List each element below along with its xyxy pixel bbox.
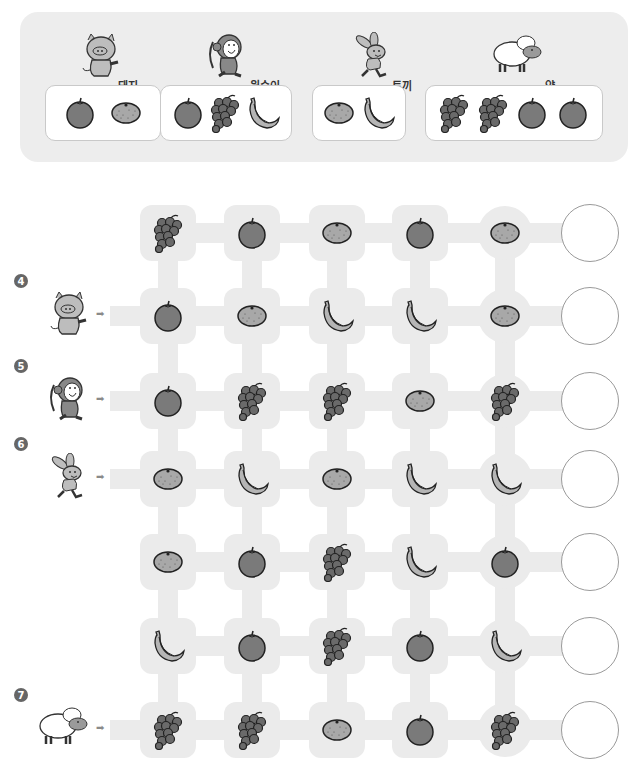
answer-circle[interactable] — [561, 533, 619, 591]
maze-cell[interactable] — [224, 702, 280, 758]
maze-cell[interactable] — [478, 452, 532, 506]
arrow-right-icon: ➡ — [96, 471, 104, 482]
legend-fruit-box — [425, 85, 603, 141]
maze-cell[interactable] — [392, 534, 448, 590]
apple-icon — [63, 96, 97, 130]
banana-icon — [234, 462, 270, 496]
maze-cell[interactable] — [392, 373, 448, 429]
grapes-icon — [209, 93, 241, 133]
maze-cell[interactable] — [392, 205, 448, 261]
arrow-right-icon: ➡ — [96, 308, 104, 319]
legend-fruit-box — [312, 85, 406, 141]
maze-cell[interactable] — [392, 451, 448, 507]
monkey-icon — [205, 32, 251, 84]
grapes-icon — [321, 542, 353, 582]
apple-icon — [515, 96, 549, 130]
grapes-icon — [152, 710, 184, 750]
maze-cell[interactable] — [309, 205, 365, 261]
grapes-icon — [321, 626, 353, 666]
maze-cell[interactable] — [309, 618, 365, 674]
maze-cell[interactable] — [478, 374, 532, 428]
apple-icon — [235, 629, 269, 663]
maze-cell[interactable] — [392, 288, 448, 344]
legend-fruit-box — [45, 85, 161, 141]
monkey-icon — [46, 375, 92, 427]
maze-cell[interactable] — [140, 702, 196, 758]
sheep-icon — [38, 704, 90, 752]
arrow-right-icon: ➡ — [96, 722, 104, 733]
answer-circle[interactable] — [561, 701, 619, 759]
tangerine-icon — [320, 466, 354, 492]
maze-cell[interactable] — [478, 535, 532, 589]
banana-icon — [402, 545, 438, 579]
row-number-badge: 4 — [14, 274, 28, 288]
apple-icon — [171, 96, 205, 130]
maze-cell[interactable] — [309, 288, 365, 344]
maze-cell[interactable] — [140, 534, 196, 590]
rabbit-icon — [46, 453, 92, 505]
banana-icon — [319, 299, 355, 333]
maze-cell[interactable] — [478, 206, 532, 260]
grapes-icon — [236, 381, 268, 421]
maze-cell[interactable] — [224, 451, 280, 507]
banana-icon — [245, 96, 281, 130]
maze-cell[interactable] — [309, 451, 365, 507]
tangerine-icon — [320, 717, 354, 743]
tangerine-icon — [403, 388, 437, 414]
rabbit-icon — [350, 32, 396, 84]
maze-cell[interactable] — [224, 618, 280, 674]
maze-cell[interactable] — [140, 288, 196, 344]
maze-cell[interactable] — [224, 373, 280, 429]
maze-cell[interactable] — [392, 618, 448, 674]
answer-circle[interactable] — [561, 617, 619, 675]
maze-cell[interactable] — [140, 618, 196, 674]
maze-cell[interactable] — [309, 534, 365, 590]
answer-circle[interactable] — [561, 450, 619, 508]
banana-icon — [402, 299, 438, 333]
tangerine-icon — [151, 466, 185, 492]
tangerine-icon — [151, 549, 185, 575]
row-number-badge: 7 — [14, 688, 28, 702]
row-number-badge: 6 — [14, 437, 28, 451]
answer-circle[interactable] — [561, 372, 619, 430]
tangerine-icon — [488, 303, 522, 329]
tangerine-icon — [109, 100, 143, 126]
apple-icon — [556, 96, 590, 130]
apple-icon — [403, 216, 437, 250]
maze-cell[interactable] — [309, 373, 365, 429]
banana-icon — [402, 462, 438, 496]
apple-icon — [488, 545, 522, 579]
tangerine-icon — [235, 303, 269, 329]
grapes-icon — [477, 93, 509, 133]
grapes-icon — [236, 710, 268, 750]
maze-cell[interactable] — [478, 289, 532, 343]
maze-cell[interactable] — [478, 619, 532, 673]
apple-icon — [235, 216, 269, 250]
grapes-icon — [438, 93, 470, 133]
pig-icon — [46, 290, 92, 342]
maze-cell[interactable] — [309, 702, 365, 758]
grapes-icon — [489, 381, 521, 421]
maze-cell[interactable] — [140, 205, 196, 261]
apple-icon — [151, 384, 185, 418]
banana-icon — [150, 629, 186, 663]
answer-circle[interactable] — [561, 204, 619, 262]
maze-cell[interactable] — [224, 205, 280, 261]
grapes-icon — [152, 213, 184, 253]
tangerine-icon — [488, 220, 522, 246]
maze-cell[interactable] — [140, 373, 196, 429]
banana-icon — [487, 629, 523, 663]
maze-cell[interactable] — [140, 451, 196, 507]
tangerine-icon — [320, 220, 354, 246]
answer-circle[interactable] — [561, 287, 619, 345]
maze-cell[interactable] — [224, 534, 280, 590]
maze-cell[interactable] — [392, 702, 448, 758]
maze-cell[interactable] — [478, 703, 532, 757]
apple-icon — [403, 713, 437, 747]
grapes-icon — [321, 381, 353, 421]
apple-icon — [403, 629, 437, 663]
apple-icon — [151, 299, 185, 333]
maze-cell[interactable] — [224, 288, 280, 344]
grapes-icon — [489, 710, 521, 750]
arrow-right-icon: ➡ — [96, 393, 104, 404]
